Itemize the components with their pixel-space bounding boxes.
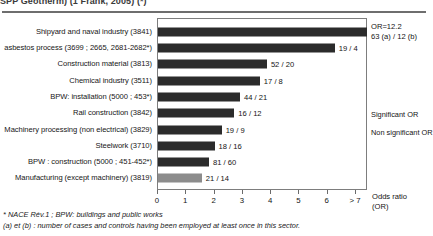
- bar: [158, 27, 367, 36]
- category-label: Chemical industry (3511): [69, 75, 152, 84]
- bar: [158, 174, 202, 183]
- axis-tick: [242, 190, 243, 194]
- axis-tick-label: 6: [325, 196, 329, 205]
- bar-value-label: 44 / 21: [244, 92, 267, 101]
- x-axis-title-line1: Odds ratio: [372, 192, 407, 202]
- bar: [158, 44, 335, 53]
- category-label: Construction material (3813): [58, 59, 152, 68]
- axis-tick-label: 5: [296, 196, 300, 205]
- category-label: Steelwork (3710): [95, 140, 152, 149]
- category-label: Manufacturing (except machinery) (3819): [15, 173, 152, 182]
- bar-value-label: 81 / 60: [213, 158, 236, 167]
- bar: [158, 109, 234, 118]
- bar-value-label: 18 / 16: [219, 141, 242, 150]
- bar-value-label: 19 / 9: [226, 125, 245, 134]
- axis-tick: [157, 190, 158, 194]
- axis-tick: [214, 190, 215, 194]
- bar-value-label: 16 / 12: [238, 109, 261, 118]
- axis-tick-label: 3: [240, 196, 244, 205]
- axis-tick: [298, 190, 299, 194]
- header-divider: [2, 11, 426, 13]
- bar: [158, 92, 240, 101]
- footnote-nace: * NACE Rév.1 ; BPW: buildings and public…: [3, 210, 163, 219]
- axis-tick: [355, 190, 356, 194]
- bar: [158, 76, 260, 85]
- bar-value-label: 19 / 4: [339, 44, 358, 53]
- annotation-or-value: OR=12.2: [371, 22, 402, 31]
- bar: [158, 60, 267, 69]
- axis-tick-label: > 7: [349, 196, 360, 205]
- axis-tick: [327, 190, 328, 194]
- footnote-cases: (a) et (b) : number of cases and control…: [3, 221, 300, 230]
- bar: [158, 141, 215, 150]
- legend-entry-significant: Significant OR: [371, 110, 418, 119]
- bar-value-label: 17 / 8: [264, 76, 283, 85]
- axis-tick: [270, 190, 271, 194]
- bar-value-label: 52 / 20: [271, 60, 294, 69]
- axis-tick: [185, 190, 186, 194]
- category-label: BPW : construction (5000 ; 451-452*): [28, 157, 152, 166]
- axis-tick-label: 1: [183, 196, 187, 205]
- category-label: BPW: installation (5000 ; 453*): [50, 91, 152, 100]
- bar-value-label: 21 / 14: [206, 174, 229, 183]
- axis-tick-label: 2: [211, 196, 215, 205]
- x-axis-title-line2: (OR): [372, 202, 407, 212]
- legend-entry-non-significant: Non significant OR: [371, 128, 433, 137]
- axis-tick-label: 0: [155, 196, 159, 205]
- clipped-caption-text: SPP Geotherm) (1 Frank, 2005) (*): [0, 0, 300, 8]
- bar: [158, 158, 209, 167]
- bar: [158, 125, 222, 134]
- annotation-counts: 63 (a) / 12 (b): [371, 32, 417, 41]
- category-label-column: Shipyard and naval industry (3841)asbest…: [0, 18, 154, 190]
- category-label: Shipyard and naval industry (3841): [36, 26, 152, 35]
- plot-area: 19 / 452 / 2017 / 844 / 2116 / 1219 / 91…: [157, 18, 367, 190]
- x-axis-title: Odds ratio (OR): [372, 192, 407, 211]
- category-label: Machinery processing (non electrical) (3…: [4, 124, 152, 133]
- category-label: Rail construction (3842): [73, 108, 152, 117]
- axis-tick-label: 4: [268, 196, 272, 205]
- category-label: asbestos process (3699 ; 2665, 2681-2682…: [4, 43, 152, 52]
